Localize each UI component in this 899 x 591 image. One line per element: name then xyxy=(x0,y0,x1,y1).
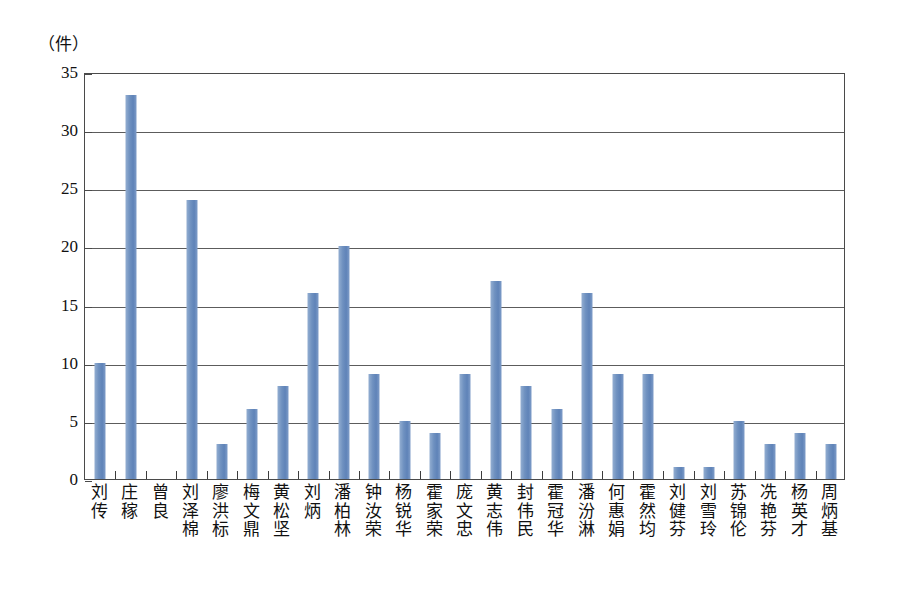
bar xyxy=(277,386,288,479)
x-axis-category-label: 黄松坚 xyxy=(267,484,297,540)
bar xyxy=(399,421,410,479)
x-axis-category-label: 潘汾淋 xyxy=(571,484,601,540)
x-axis-tick-mark xyxy=(176,471,177,479)
x-axis-tick-mark xyxy=(602,471,603,479)
x-axis-tick-mark xyxy=(724,471,725,479)
bar-slot xyxy=(663,74,693,479)
x-axis-tick-mark xyxy=(816,471,817,479)
x-axis-tick-mark xyxy=(115,471,116,479)
bar-chart: （件） 05101520253035 刘传庄稼曾良刘泽棉廖洪标梅文鼎黄松坚刘炳潘… xyxy=(0,0,899,591)
bar xyxy=(521,386,532,479)
x-axis-category-label: 周炳基 xyxy=(815,484,845,540)
x-axis-category-label: 庞文忠 xyxy=(449,484,479,540)
x-axis-tick-mark xyxy=(359,471,360,479)
x-axis-tick-mark xyxy=(207,471,208,479)
bar xyxy=(308,293,319,479)
bar-slot xyxy=(542,74,572,479)
x-axis-category-label: 苏锦伦 xyxy=(723,484,753,540)
bar xyxy=(338,246,349,479)
bar-slot xyxy=(268,74,298,479)
bar-slot xyxy=(389,74,419,479)
x-axis-tick-mark xyxy=(633,471,634,479)
x-axis-tick-mark xyxy=(481,471,482,479)
bar-slot xyxy=(602,74,632,479)
x-axis-category-label: 刘传 xyxy=(84,484,114,521)
bar-slot xyxy=(329,74,359,479)
bar-slot xyxy=(785,74,815,479)
bar-slot xyxy=(207,74,237,479)
bar xyxy=(825,444,836,479)
x-axis-tick-mark xyxy=(663,471,664,479)
x-axis-tick-mark xyxy=(420,471,421,479)
bar-slot xyxy=(115,74,145,479)
x-axis-category-label: 刘健芬 xyxy=(662,484,692,540)
y-axis-tick-label: 5 xyxy=(38,413,78,430)
x-axis-category-label: 冼艳芬 xyxy=(754,484,784,540)
x-axis-category-label: 杨英才 xyxy=(784,484,814,540)
y-axis-tick-labels: 05101520253035 xyxy=(30,73,78,480)
bar-slot xyxy=(481,74,511,479)
bar-slot xyxy=(237,74,267,479)
x-axis-tick-mark xyxy=(389,471,390,479)
x-axis-category-label: 封伟民 xyxy=(510,484,540,540)
x-axis-tick-mark xyxy=(268,471,269,479)
bar-slot xyxy=(633,74,663,479)
x-axis-category-label: 霍家荣 xyxy=(419,484,449,540)
bar xyxy=(125,95,136,479)
x-axis-category-label: 何惠娟 xyxy=(601,484,631,540)
bar-slot xyxy=(724,74,754,479)
bar-slot xyxy=(420,74,450,479)
bar xyxy=(95,363,106,479)
bar-slot xyxy=(816,74,846,479)
x-axis-category-label: 霍冠华 xyxy=(541,484,571,540)
y-axis-tick-label: 20 xyxy=(38,238,78,255)
bar-slot xyxy=(450,74,480,479)
x-axis-category-label: 刘炳 xyxy=(297,484,327,521)
bars xyxy=(85,74,844,479)
x-axis-category-label: 廖洪标 xyxy=(206,484,236,540)
bar-slot xyxy=(298,74,328,479)
x-axis-tick-mark xyxy=(694,471,695,479)
bar-slot xyxy=(755,74,785,479)
bar xyxy=(369,374,380,479)
x-axis-category-label: 刘泽棉 xyxy=(175,484,205,540)
x-axis-category-label: 钟汝荣 xyxy=(358,484,388,540)
y-axis-tick-label: 10 xyxy=(38,355,78,372)
x-axis-category-label: 霍然均 xyxy=(632,484,662,540)
x-axis-category-labels: 刘传庄稼曾良刘泽棉廖洪标梅文鼎黄松坚刘炳潘柏林钟汝荣杨锐华霍家荣庞文忠黄志伟封伟… xyxy=(84,484,845,588)
x-axis-tick-mark xyxy=(237,471,238,479)
bar xyxy=(216,444,227,479)
bar xyxy=(673,467,684,479)
y-axis-unit-caption: （件） xyxy=(38,30,89,55)
bar-slot xyxy=(572,74,602,479)
bar xyxy=(430,433,441,480)
y-axis-tick-mark xyxy=(85,481,92,482)
x-axis-category-label: 曾良 xyxy=(145,484,175,521)
bar-slot xyxy=(694,74,724,479)
x-axis-category-label: 梅文鼎 xyxy=(236,484,266,540)
bar xyxy=(734,421,745,479)
y-axis-tick-label: 35 xyxy=(38,64,78,81)
plot-area xyxy=(84,73,845,480)
x-axis-tick-mark xyxy=(298,471,299,479)
x-axis-category-label: 庄稼 xyxy=(114,484,144,521)
x-axis-category-label: 杨锐华 xyxy=(388,484,418,540)
x-axis-tick-mark xyxy=(511,471,512,479)
bar xyxy=(764,444,775,479)
bar-slot xyxy=(176,74,206,479)
bar xyxy=(704,467,715,479)
x-axis-tick-mark xyxy=(785,471,786,479)
y-axis-tick-label: 15 xyxy=(38,297,78,314)
x-axis-tick-mark xyxy=(450,471,451,479)
bar xyxy=(795,433,806,480)
x-axis-category-label: 刘雪玲 xyxy=(693,484,723,540)
x-axis-tick-mark xyxy=(542,471,543,479)
bar-slot xyxy=(146,74,176,479)
y-axis-tick-label: 30 xyxy=(38,122,78,139)
y-axis-tick-label: 0 xyxy=(38,471,78,488)
x-axis-tick-mark xyxy=(572,471,573,479)
bar xyxy=(612,374,623,479)
x-axis-tick-mark xyxy=(146,471,147,479)
bar xyxy=(247,409,258,479)
bar xyxy=(186,200,197,479)
